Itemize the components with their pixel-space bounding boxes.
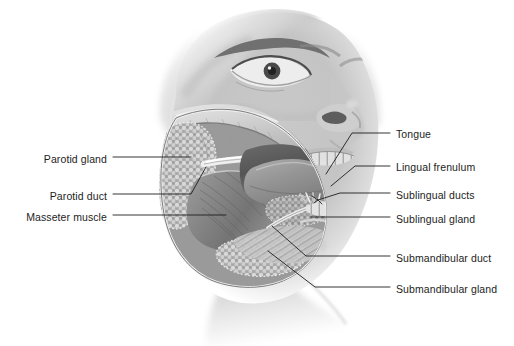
- anatomy-figure: Parotid glandParotid ductMasseter muscle…: [0, 0, 514, 346]
- label-submandibular-duct: Submandibular duct: [396, 252, 491, 264]
- label-parotid-gland: Parotid gland: [0, 153, 107, 165]
- label-masseter-muscle: Masseter muscle: [0, 211, 107, 223]
- label-lingual-frenulum: Lingual frenulum: [396, 161, 475, 173]
- label-sublingual-gland: Sublingual gland: [396, 213, 475, 225]
- label-sublingual-ducts: Sublingual ducts: [396, 189, 475, 201]
- label-parotid-duct: Parotid duct: [0, 190, 107, 202]
- label-submandibular-gland: Submandibular gland: [396, 283, 497, 295]
- label-tongue: Tongue: [396, 128, 431, 140]
